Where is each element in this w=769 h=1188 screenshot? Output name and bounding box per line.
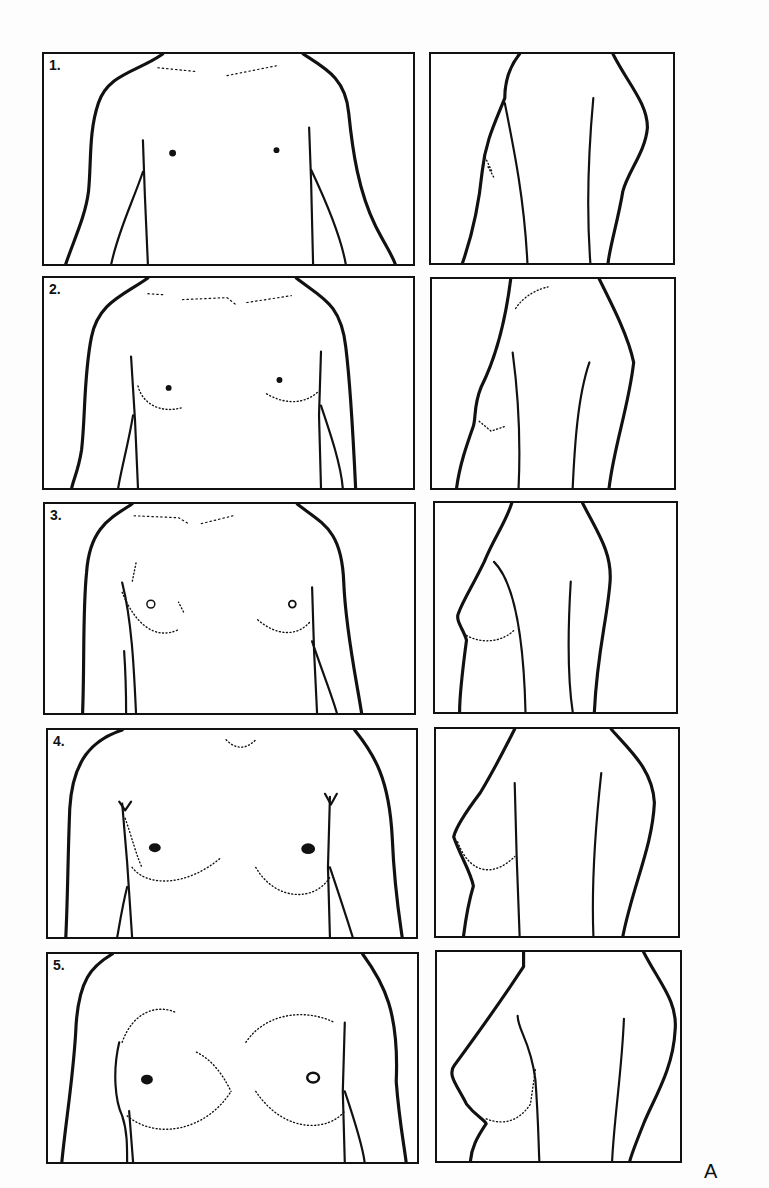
frontal-torso-drawing xyxy=(48,730,416,937)
stage-4-lateral-panel xyxy=(434,727,680,938)
stage-1-frontal-panel: 1. xyxy=(42,52,415,266)
stage-2-lateral-panel xyxy=(430,277,676,490)
stage-1-lateral-panel xyxy=(429,52,675,265)
stage-5-lateral-panel xyxy=(435,950,682,1163)
stage-3-frontal-panel: 3. xyxy=(43,502,416,715)
frontal-torso-drawing xyxy=(45,504,414,713)
lateral-torso-drawing xyxy=(435,503,676,712)
figure-label: A xyxy=(704,1160,717,1183)
lateral-torso-drawing xyxy=(436,729,678,936)
frontal-torso-drawing xyxy=(44,278,413,488)
lateral-torso-drawing xyxy=(431,54,673,263)
stage-4-frontal-panel: 4. xyxy=(46,728,418,939)
lateral-torso-drawing xyxy=(432,279,674,488)
frontal-torso-drawing xyxy=(48,954,417,1162)
frontal-torso-drawing xyxy=(44,54,413,264)
stage-5-frontal-panel: 5. xyxy=(46,952,419,1164)
stage-2-frontal-panel: 2. xyxy=(42,276,415,490)
lateral-torso-drawing xyxy=(437,952,680,1161)
stage-3-lateral-panel xyxy=(433,501,678,714)
